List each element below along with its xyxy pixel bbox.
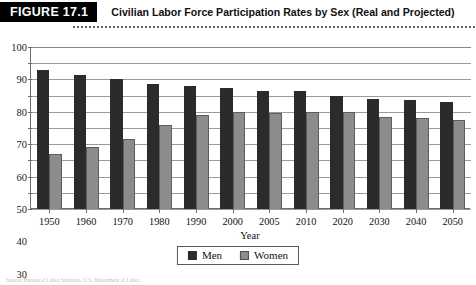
legend-item-women: Women [240,249,288,261]
x-axis-tick-mark-1960 [86,209,87,213]
x-axis-tick-label-2000: 2000 [222,216,243,227]
bar-women-2005[interactable] [269,113,282,209]
x-axis-tick-label-2040: 2040 [406,216,427,227]
header-dotted-rule [72,26,476,28]
bar-women-2020[interactable] [343,112,356,209]
plot-area: 0102030405060708090100 19501960197019801… [30,47,470,209]
y-axis-tick-label-70: 70 [17,139,28,150]
x-axis-tick-label-1990: 1990 [186,216,207,227]
source-note: Source: Bureau of Labor Statistics, U.S.… [6,277,306,285]
bar-men-1970[interactable] [110,79,123,209]
bar-women-1980[interactable] [159,125,172,209]
bar-women-1970[interactable] [123,139,136,209]
chart-legend: Men Women [177,246,299,265]
bar-women-2030[interactable] [379,117,392,209]
bar-women-2000[interactable] [233,112,246,209]
bar-men-1960[interactable] [74,75,87,209]
x-axis-tick-mark-2005 [269,209,270,213]
bar-women-2010[interactable] [306,112,319,209]
y-axis-tick-label-60: 60 [17,171,28,182]
bar-group-1990: 1990 [178,47,215,209]
x-axis-title: Year [30,230,470,241]
x-axis-tick-mark-1950 [49,209,50,213]
x-axis-tick-mark-2050 [453,209,454,213]
bar-women-2050[interactable] [453,120,466,209]
x-axis-tick-label-1980: 1980 [149,216,170,227]
legend-label-women: Women [254,249,288,261]
y-axis-tick-label-40: 40 [17,236,28,247]
y-axis-tick-label-50: 50 [17,204,28,215]
figure-panel: FIGURE 17.1 Civilian Labor Force Partici… [0,0,476,285]
bar-men-2005[interactable] [257,91,270,209]
bar-men-1990[interactable] [184,86,197,209]
x-axis-tick-label-2050: 2050 [442,216,463,227]
y-axis-tick-label-90: 90 [17,74,28,85]
x-axis-tick-label-2020: 2020 [332,216,353,227]
x-axis-tick-label-2010: 2010 [296,216,317,227]
bar-men-2010[interactable] [294,91,307,209]
chart-container: 0102030405060708090100 19501960197019801… [0,34,476,279]
bar-group-1950: 1950 [31,47,68,209]
y-axis-tick-label-100: 100 [11,42,27,53]
x-axis-tick-mark-2030 [379,209,380,213]
bar-group-2030: 2030 [361,47,398,209]
bar-group-2050: 2050 [434,47,471,209]
x-axis-tick-label-2030: 2030 [369,216,390,227]
bar-group-1960: 1960 [68,47,105,209]
x-axis-tick-mark-2010 [306,209,307,213]
bar-men-2020[interactable] [330,96,343,209]
gridline-0: 0 [31,209,471,210]
bar-men-2000[interactable] [220,88,233,210]
bar-group-2010: 2010 [288,47,325,209]
figure-header: FIGURE 17.1 Civilian Labor Force Partici… [0,2,476,22]
x-axis-tick-mark-1990 [196,209,197,213]
y-axis-tick-label-80: 80 [17,106,28,117]
x-axis-tick-mark-1980 [159,209,160,213]
bar-women-1950[interactable] [49,154,62,209]
bar-men-2040[interactable] [404,100,417,209]
bar-group-2005: 2005 [251,47,288,209]
bar-group-2000: 2000 [214,47,251,209]
legend-item-men: Men [188,249,222,261]
bar-women-2040[interactable] [416,118,429,209]
x-axis-tick-mark-2000 [233,209,234,213]
legend-swatch-men-icon [188,251,197,260]
x-axis-tick-label-2005: 2005 [259,216,280,227]
bar-women-1960[interactable] [86,147,99,209]
bar-men-2030[interactable] [367,99,380,209]
x-axis-tick-mark-2040 [416,209,417,213]
bar-series-group: 1950196019701980199020002005201020202030… [31,47,471,209]
legend-label-men: Men [202,249,222,261]
x-axis-tick-label-1970: 1970 [112,216,133,227]
x-axis-tick-mark-1970 [123,209,124,213]
bar-group-1970: 1970 [104,47,141,209]
y-axis-tick-mark-0 [28,209,32,210]
bar-men-2050[interactable] [440,102,453,209]
figure-number-badge: FIGURE 17.1 [0,2,97,22]
bar-women-1990[interactable] [196,115,209,209]
x-axis-tick-label-1960: 1960 [76,216,97,227]
bar-group-1980: 1980 [141,47,178,209]
x-axis-tick-mark-2020 [343,209,344,213]
bar-men-1950[interactable] [37,70,50,209]
legend-swatch-women-icon [240,251,249,260]
bar-men-1980[interactable] [147,84,160,209]
figure-title: Civilian Labor Force Participation Rates… [97,2,454,22]
bar-group-2020: 2020 [324,47,361,209]
x-axis-tick-label-1950: 1950 [39,216,60,227]
bar-group-2040: 2040 [398,47,435,209]
